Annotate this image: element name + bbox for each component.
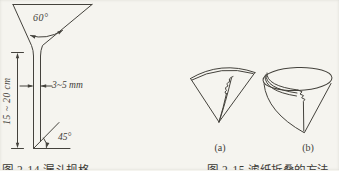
figures-line-art [0, 0, 339, 170]
tip-angle-label: 45° [58, 132, 71, 142]
stem-length-dimension [12, 53, 24, 149]
subfigure-b-label: (b) [302, 142, 314, 153]
funnel-60-degree-dimension [31, 31, 63, 39]
funnel-outline-drawing [13, 5, 92, 149]
figure-2-15-caption: 图 2-15 滤纸折叠的方法 [207, 161, 329, 171]
cone-angle-label: 60° [33, 12, 49, 23]
subfigure-a-label: (a) [214, 142, 225, 153]
stem-width-dimension [20, 84, 52, 87]
folded-filter-paper-a-drawing [191, 68, 256, 122]
scanned-page: 60° 3~5 mm 15 ~ 20 cm 45° (a) (b) 图 2-14… [0, 0, 339, 170]
stem-length-label: 15 ~ 20 cm [2, 77, 12, 124]
figure-2-14-caption: 图 2-14 漏斗规格 [2, 161, 89, 171]
opened-filter-paper-b-drawing [263, 66, 333, 132]
stem-width-label: 3~5 mm [52, 80, 83, 90]
funnel-45-degree-dimension [44, 138, 50, 148]
